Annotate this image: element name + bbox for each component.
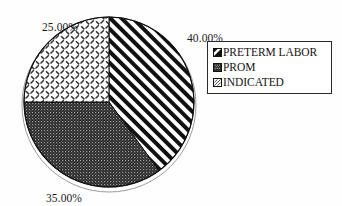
legend-item-indicated[interactable]: INDICATED: [213, 75, 327, 90]
pie-chart: 25.00% 40.00% 35.00%: [20, 10, 200, 196]
dense-dot-grid-swatch-icon: [213, 63, 222, 72]
legend-item-prom[interactable]: PROM: [213, 60, 327, 75]
chart-legend: PRETERM LABOR: [207, 41, 332, 94]
legend-label-prom: PROM: [223, 61, 255, 74]
legend-item-preterm-labor[interactable]: PRETERM LABOR: [213, 45, 327, 60]
legend-label-indicated: INDICATED: [223, 76, 284, 89]
data-label-prom: 35.00%: [46, 192, 82, 204]
dashed-crosshatch-swatch-icon: [213, 78, 222, 87]
diagonal-stripes-swatch-icon: [213, 48, 222, 57]
data-label-indicated: 25.00%: [42, 21, 78, 33]
pie-chart-svg: [20, 10, 200, 196]
legend-label-preterm-labor: PRETERM LABOR: [223, 46, 317, 59]
chart-canvas: 25.00% 40.00% 35.00% PRETERM LABOR: [0, 0, 342, 206]
